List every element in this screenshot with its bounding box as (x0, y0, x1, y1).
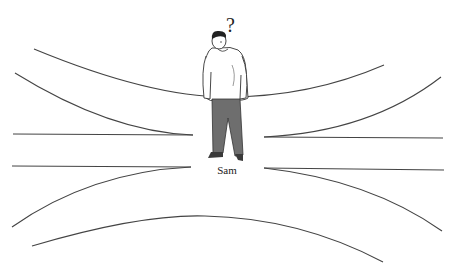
eye (220, 41, 221, 42)
upper-right-horizontal-line (264, 137, 443, 138)
diagram-canvas: ? (0, 0, 454, 273)
lower-right-arc-line (264, 168, 442, 231)
upper-right-arc-line (264, 77, 441, 137)
question-mark-icon: ? (226, 14, 235, 36)
bottom-arc-line (32, 216, 383, 262)
upper-left-arc-line (15, 73, 193, 135)
upper-left-horizontal-line (13, 134, 193, 135)
lower-left-horizontal-line (12, 166, 191, 167)
trousers (212, 99, 243, 156)
person-name-label: Sam (197, 164, 257, 176)
person-figure: ? (203, 14, 248, 161)
right-shoe (235, 154, 243, 161)
left-shoe (208, 152, 223, 158)
lower-right-horizontal-line (264, 168, 444, 170)
